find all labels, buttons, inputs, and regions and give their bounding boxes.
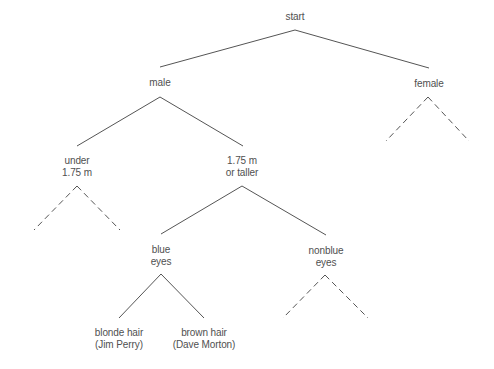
edge-nonblue-to-unexpanded-right	[325, 275, 368, 318]
edge-start-to-male	[160, 30, 295, 67]
node-under: under1.75 m	[62, 155, 92, 179]
node-label-line: start	[286, 11, 305, 23]
edge-blue-to-blonde	[119, 274, 161, 318]
node-label-line: eyes	[151, 256, 172, 268]
node-nonblue: nonblueeyes	[309, 245, 344, 269]
node-taller: 1.75 mor taller	[226, 155, 258, 179]
edge-taller-to-nonblue	[242, 186, 326, 235]
edge-start-to-female	[295, 30, 429, 68]
node-label-line: blonde hair	[95, 327, 143, 339]
node-male: male	[149, 77, 170, 89]
edge-under-to-unexpanded-right	[77, 186, 120, 230]
node-blue: blueeyes	[151, 244, 172, 268]
edge-male-to-under	[77, 97, 160, 146]
node-female: female	[414, 78, 443, 90]
edge-taller-to-blue	[161, 186, 242, 234]
node-label-line: male	[149, 77, 170, 89]
edge-male-to-taller	[160, 97, 243, 146]
node-blonde: blonde hair(Jim Perry)	[95, 327, 143, 351]
node-label-line: under	[62, 155, 92, 167]
edge-female-to-unexpanded-left	[386, 97, 428, 141]
node-label-line: blue	[151, 244, 172, 256]
node-start: start	[286, 11, 305, 23]
edge-blue-to-brown	[161, 274, 204, 318]
node-label-line: nonblue	[309, 245, 344, 257]
edge-female-to-unexpanded-right	[428, 97, 469, 141]
edge-nonblue-to-unexpanded-left	[283, 275, 325, 318]
tree-edges	[0, 0, 494, 369]
edge-under-to-unexpanded-left	[34, 186, 77, 230]
node-label-line: brown hair	[173, 327, 236, 339]
node-label-line: (Dave Morton)	[173, 339, 236, 351]
node-label-line: eyes	[309, 257, 344, 269]
node-label-line: female	[414, 78, 443, 90]
node-label-line: 1.75 m	[62, 167, 92, 179]
node-label-line: 1.75 m	[226, 155, 258, 167]
node-brown: brown hair(Dave Morton)	[173, 327, 236, 351]
node-label-line: (Jim Perry)	[95, 339, 143, 351]
node-label-line: or taller	[226, 167, 258, 179]
